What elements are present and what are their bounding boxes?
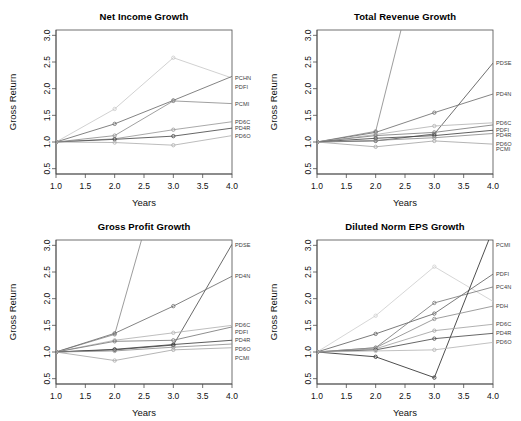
y-tick-label: 1.0 [303, 136, 313, 148]
x-tick-label: 2.5 [399, 391, 411, 401]
x-tick-label: 4.0 [226, 181, 238, 191]
series-label: PD6O [496, 339, 512, 345]
y-axis: 0.51.01.52.02.53.0 [42, 239, 56, 384]
x-axis: 1.01.52.02.53.03.54.0 [50, 174, 238, 191]
series-label: PCMI [496, 146, 511, 152]
x-tick-label: 3.0 [428, 391, 440, 401]
series-label: PD6C [496, 120, 511, 126]
x-tick-label: 3.5 [458, 181, 470, 191]
y-tick-label: 2.5 [303, 266, 313, 278]
y-tick-label: 0.5 [42, 162, 52, 174]
y-tick-label: 1.5 [303, 319, 313, 331]
series-line [56, 325, 232, 352]
x-tick-label: 3.0 [428, 181, 440, 191]
y-tick-label: 1.5 [42, 319, 52, 331]
x-tick-label: 2.0 [370, 181, 382, 191]
series-layer [54, 56, 232, 147]
series-line [317, 229, 493, 377]
series-line [56, 76, 232, 142]
y-tick-label: 2.5 [42, 56, 52, 68]
y-tick-label: 1.5 [303, 109, 313, 121]
series-line [317, 267, 493, 352]
y-tick-label: 1.0 [42, 346, 52, 358]
series-label: PD4N [235, 273, 250, 279]
series-label: PD4R [235, 125, 250, 131]
x-tick-label: 3.5 [197, 391, 209, 401]
panel-title: Gross Profit Growth [98, 221, 191, 232]
y-tick-label: 2.0 [303, 82, 313, 94]
y-axis: 0.51.01.52.02.53.0 [303, 29, 317, 174]
y-tick-label: 1.5 [42, 109, 52, 121]
x-axis-label: Years [132, 407, 156, 418]
series-label: PD4R [496, 132, 511, 138]
x-axis: 1.01.52.02.53.03.54.0 [311, 174, 499, 191]
y-tick-label: 1.0 [42, 136, 52, 148]
series-line [317, 324, 493, 352]
series-label: PDH [496, 303, 508, 309]
x-axis: 1.01.52.02.53.03.54.0 [311, 384, 499, 401]
y-tick-label: 3.0 [42, 29, 52, 41]
y-tick-label: 2.5 [303, 56, 313, 68]
series-label: PDFI [496, 271, 509, 277]
series-line [56, 101, 232, 142]
series-layer [54, 210, 232, 362]
series-label: PD6O [235, 133, 251, 139]
plot-frame [56, 240, 232, 384]
panel-title: Diluted Norm EPS Growth [345, 221, 465, 232]
series-label: PCMI [235, 101, 250, 107]
series-label: PD6O [235, 346, 251, 352]
series-label: PD6C [235, 322, 250, 328]
series-line [56, 340, 232, 352]
series-label: PCMI [496, 242, 511, 248]
series-line [317, 130, 493, 142]
series-line [56, 244, 232, 352]
series-labels: PDSEPD4NPD6CPDFIPD4RPD6OPCMI [235, 242, 251, 361]
x-tick-label: 3.5 [458, 391, 470, 401]
x-axis: 1.01.52.02.53.03.54.0 [50, 384, 238, 401]
chart-panel-net-income-growth: Net Income Growth1.01.52.02.53.03.54.00.… [0, 0, 260, 210]
series-label: PD4R [235, 337, 250, 343]
x-tick-label: 2.0 [109, 181, 121, 191]
series-label: PDSE [235, 242, 251, 248]
y-tick-label: 3.0 [303, 239, 313, 251]
y-axis: 0.51.01.52.02.53.0 [303, 239, 317, 384]
x-tick-label: 4.0 [226, 391, 238, 401]
y-tick-label: 0.5 [303, 162, 313, 174]
x-axis-label: Years [393, 197, 417, 208]
series-label: PD6C [235, 119, 250, 125]
x-tick-label: 3.0 [167, 391, 179, 401]
x-tick-label: 4.0 [487, 391, 499, 401]
y-tick-label: 2.0 [42, 292, 52, 304]
y-tick-label: 1.0 [303, 346, 313, 358]
series-line [56, 58, 232, 142]
series-labels: PDSEPD4NPD6CPDFIPD4RPD6OPCMI [496, 60, 512, 152]
y-axis-label: Gross Return [268, 284, 279, 341]
series-label: PCHN [235, 75, 251, 81]
x-tick-label: 1.0 [50, 391, 62, 401]
series-label: PDSE [496, 60, 512, 66]
panel-title: Total Revenue Growth [354, 11, 456, 22]
x-tick-label: 2.5 [138, 391, 150, 401]
x-tick-label: 1.0 [311, 181, 323, 191]
panel-title: Net Income Growth [100, 11, 189, 22]
series-label: PDFI [235, 84, 248, 90]
series-label: PD4R [496, 330, 511, 336]
y-axis-label: Gross Return [7, 74, 18, 131]
x-tick-label: 1.0 [50, 181, 62, 191]
x-tick-label: 3.0 [167, 181, 179, 191]
x-axis-label: Years [393, 407, 417, 418]
series-label: PDFI [235, 329, 248, 335]
series-line [317, 94, 493, 142]
y-axis: 0.51.01.52.02.53.0 [42, 29, 56, 174]
series-line [317, 306, 493, 352]
series-layer [315, 229, 493, 379]
figure-grid: Net Income Growth1.01.52.02.53.03.54.00.… [0, 0, 521, 421]
series-label: PC4N [496, 284, 511, 290]
y-tick-label: 0.5 [42, 372, 52, 384]
x-tick-label: 1.5 [340, 181, 352, 191]
y-tick-label: 3.0 [303, 29, 313, 41]
series-label: PD6C [496, 321, 511, 327]
chart-panel-total-revenue-growth: Total Revenue Growth1.01.52.02.53.03.54.… [261, 0, 521, 210]
x-tick-label: 2.5 [399, 181, 411, 191]
y-tick-label: 2.0 [303, 292, 313, 304]
